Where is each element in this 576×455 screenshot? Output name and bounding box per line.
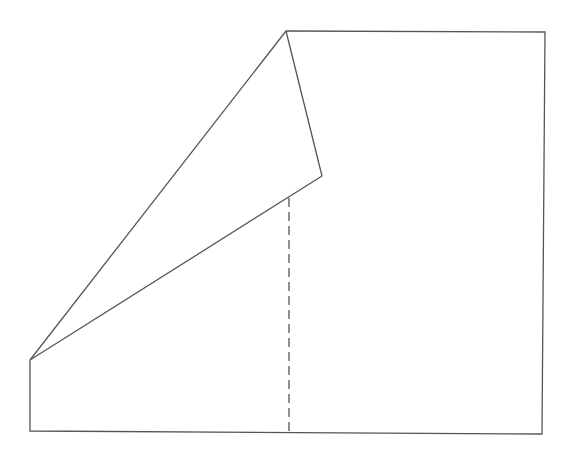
flap-edge-bottom (30, 176, 322, 360)
folded-rectangle-diagram (0, 0, 576, 455)
flap-edge-top (286, 31, 322, 176)
sheet-outline (30, 31, 545, 434)
fold-crease-line (30, 31, 286, 360)
